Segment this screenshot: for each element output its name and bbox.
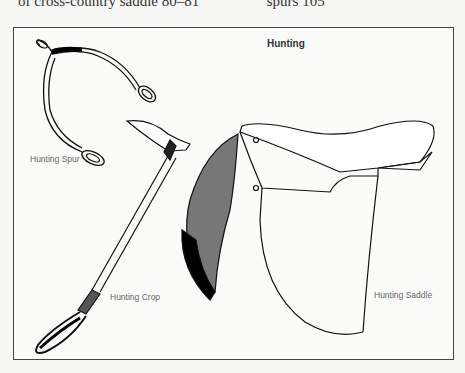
hunting-equipment-illustration: [0, 0, 465, 373]
hunting-spur-icon: [35, 38, 158, 168]
label-hunting-spur: Hunting Spur: [30, 154, 80, 164]
figure-title: Hunting: [267, 38, 305, 49]
hunting-saddle-icon: [182, 121, 434, 334]
label-hunting-saddle: Hunting Saddle: [374, 290, 432, 300]
label-hunting-crop: Hunting Crop: [110, 292, 160, 302]
